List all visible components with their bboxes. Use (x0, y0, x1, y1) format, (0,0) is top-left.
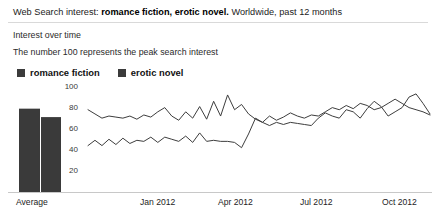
chart-legend: romance fiction erotic novel (17, 68, 183, 78)
legend-swatch-icon (118, 69, 126, 77)
x-axis-tick-apr: Apr 2012 (218, 197, 253, 207)
title-search-terms: romance fiction, erotic novel. (101, 7, 229, 17)
legend-swatch-icon (17, 69, 25, 77)
legend-item-romance-fiction[interactable]: romance fiction (17, 68, 100, 78)
average-bar[interactable] (41, 117, 61, 192)
x-axis-tick-oct: Oct 2012 (382, 197, 417, 207)
x-axis-tick-jul: Jul 2012 (300, 197, 333, 207)
series-lines-group (88, 94, 430, 148)
average-bars-group (19, 109, 61, 192)
title-scope: Worldwide, past 12 months (231, 7, 342, 17)
title-lead: Web Search interest: (13, 7, 99, 17)
section-subtitle: Interest over time (13, 30, 81, 41)
header-divider (8, 22, 428, 23)
chart-area[interactable]: 100 80 60 40 20 Average Jan 2012 Apr 201… (0, 84, 436, 218)
page-title: Web Search interest: romance fiction, er… (13, 6, 342, 18)
x-axis-tick-jan: Jan 2012 (140, 197, 175, 207)
google-trends-panel: Web Search interest: romance fiction, er… (0, 0, 436, 218)
legend-label: romance fiction (30, 68, 100, 78)
peak-interest-caption: The number 100 represents the peak searc… (13, 47, 218, 58)
x-axis-tick-average: Average (16, 197, 48, 207)
average-bar[interactable] (19, 109, 40, 192)
x-axis-baseline (8, 192, 432, 193)
legend-item-erotic-novel[interactable]: erotic novel (118, 68, 184, 78)
legend-label: erotic novel (131, 68, 184, 78)
x-axis-labels: Average Jan 2012 Apr 2012 Jul 2012 Oct 2… (0, 197, 436, 213)
series-line (88, 99, 430, 148)
